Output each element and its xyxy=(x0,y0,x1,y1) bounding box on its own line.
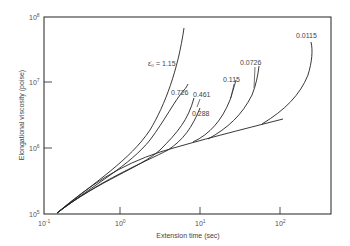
y-tick-1e7: 107 xyxy=(29,77,40,86)
y-tick-1e6: 106 xyxy=(29,143,40,152)
label-0.288: 0.288 xyxy=(192,110,210,117)
curve-0.726 xyxy=(57,84,188,213)
y-tick-1e5: 105 xyxy=(29,209,40,218)
curves xyxy=(57,28,312,213)
x-axis-label: Extension time (sec) xyxy=(156,232,219,240)
curve-1.15 xyxy=(57,28,184,213)
label-0.461: 0.461 xyxy=(193,91,211,98)
curve-0.0115 xyxy=(262,42,312,124)
label-0.726: 0.726 xyxy=(171,89,189,96)
y-tick-1e8: 108 xyxy=(29,12,40,21)
x-tick-1e2: 102 xyxy=(275,218,286,227)
envelope-curve xyxy=(57,119,283,213)
x-tick-1e-1: 10-1 xyxy=(38,218,50,227)
label-0.0726: 0.0726 xyxy=(240,59,262,66)
x-axis: 10-1 100 101 102 Extension time (sec) xyxy=(38,207,286,240)
label-1.15: ε̇₀ = 1.15 xyxy=(148,60,176,67)
label-0.0115: 0.0115 xyxy=(296,32,317,39)
y-axis-label: Elongational viscosity (poise) xyxy=(18,70,26,160)
x-tick-1e0: 100 xyxy=(115,218,126,227)
curve-0.288 xyxy=(57,108,200,213)
label-0.115: 0.115 xyxy=(223,76,240,83)
chart: 105 106 107 108 Elongational viscosity (… xyxy=(0,0,350,246)
curve-0.461 xyxy=(57,98,194,213)
y-axis: 105 106 107 108 Elongational viscosity (… xyxy=(18,12,52,218)
x-tick-1e1: 101 xyxy=(195,218,206,227)
